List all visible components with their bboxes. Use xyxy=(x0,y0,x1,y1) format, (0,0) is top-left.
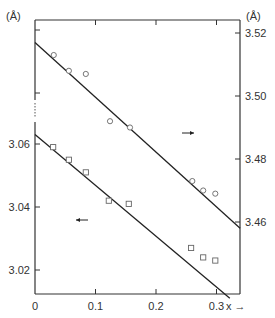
square-marker xyxy=(213,258,218,263)
square-marker xyxy=(83,170,88,175)
fit-line-upper xyxy=(35,42,240,228)
arrow-left-icon xyxy=(76,218,88,222)
x-tick-label: 0.1 xyxy=(88,300,103,312)
square-marker xyxy=(106,198,111,203)
circle-marker xyxy=(201,188,206,193)
y-left-tick-label: 3.06 xyxy=(9,138,30,150)
square-marker xyxy=(201,255,206,260)
circle-marker xyxy=(127,125,132,130)
axis-ticks xyxy=(35,20,240,294)
square-marker xyxy=(66,157,71,162)
plot-frame xyxy=(35,20,240,294)
circle-marker xyxy=(190,178,195,183)
circle-marker xyxy=(107,119,112,124)
circle-marker xyxy=(213,191,218,196)
arrow-right-icon xyxy=(182,131,194,135)
circle-marker xyxy=(83,71,88,76)
y-left-unit-label: (Å) xyxy=(6,10,21,22)
square-marker xyxy=(51,145,56,150)
x-tick-label: 0.2 xyxy=(148,300,163,312)
data-points xyxy=(51,52,218,263)
chart: 00.10.20.3x →3.023.043.063.463.483.503.5… xyxy=(0,0,275,318)
y-left-tick-label: 3.04 xyxy=(9,201,30,213)
axis-labels: 00.10.20.3x →3.023.043.063.463.483.503.5… xyxy=(6,10,266,312)
square-marker xyxy=(126,201,131,206)
fit-lines xyxy=(35,42,240,298)
y-right-tick-label: 3.48 xyxy=(245,153,266,165)
circle-marker xyxy=(66,68,71,73)
square-marker xyxy=(188,245,193,250)
x-axis-label: x → xyxy=(226,300,246,312)
fit-line-lower xyxy=(35,135,230,299)
y-left-tick-label: 3.02 xyxy=(9,264,30,276)
circle-marker xyxy=(51,52,56,57)
y-right-tick-label: 3.52 xyxy=(245,27,266,39)
x-tick-label: 0.3 xyxy=(209,300,224,312)
y-right-tick-label: 3.50 xyxy=(245,90,266,102)
x-tick-label: 0 xyxy=(32,300,38,312)
y-right-unit-label: (Å) xyxy=(246,10,261,22)
y-right-tick-label: 3.46 xyxy=(245,216,266,228)
